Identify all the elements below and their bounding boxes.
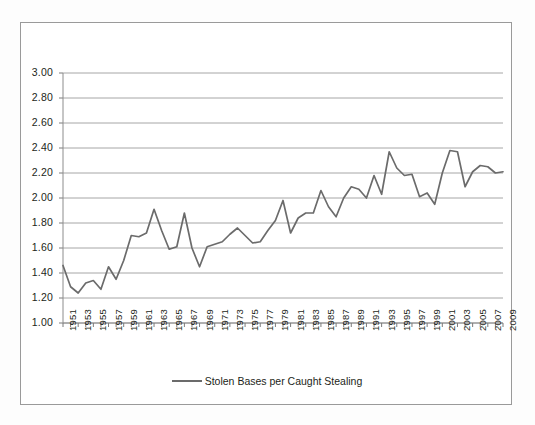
y-tick-label: 3.00: [19, 66, 53, 78]
x-tick-label: 1963: [158, 309, 169, 331]
x-tick-label: 1955: [97, 309, 108, 331]
x-tick-label: 1989: [355, 309, 366, 331]
chart-page: 1.001.201.401.601.802.002.202.402.602.80…: [0, 0, 535, 425]
x-tick-label: 1991: [370, 309, 381, 331]
x-tick-label: 1983: [310, 309, 321, 331]
x-tick-label: 1999: [431, 309, 442, 331]
y-tick-label: 2.20: [19, 166, 53, 178]
x-tick-label: 1975: [249, 309, 260, 331]
y-tick-label: 1.20: [19, 291, 53, 303]
x-tick-label: 1987: [340, 309, 351, 331]
x-tick-label: 1959: [128, 309, 139, 331]
series-line: [63, 151, 503, 294]
x-tick-label: 1967: [188, 309, 199, 331]
x-tick-label: 2005: [477, 309, 488, 331]
x-tick-label: 1985: [325, 309, 336, 331]
x-tick-label: 1973: [234, 309, 245, 331]
line-swatch: [172, 380, 202, 383]
x-tick-label: 1965: [173, 309, 184, 331]
y-tick-label: 2.00: [19, 191, 53, 203]
x-tick-label: 1979: [279, 309, 290, 331]
y-tick-label: 1.80: [19, 216, 53, 228]
x-tick-label: 2003: [461, 309, 472, 331]
y-tick-label: 1.40: [19, 266, 53, 278]
y-tick-label: 2.80: [19, 91, 53, 103]
x-tick-label: 1971: [219, 309, 230, 331]
x-tick-label: 1961: [143, 309, 154, 331]
y-tick-label: 1.60: [19, 241, 53, 253]
chart-area: 1.001.201.401.601.802.002.202.402.602.80…: [21, 23, 513, 406]
x-tick-label: 1957: [113, 309, 124, 331]
chart-legend: Stolen Bases per Caught Stealing: [21, 375, 513, 387]
x-tick-label: 1977: [264, 309, 275, 331]
chart-frame: 1.001.201.401.601.802.002.202.402.602.80…: [20, 22, 512, 405]
x-tick-label: 2007: [492, 309, 503, 331]
x-tick-label: 1969: [204, 309, 215, 331]
x-tick-label: 1995: [401, 309, 412, 331]
x-tick-label: 2009: [507, 309, 518, 331]
x-tick-label: 1997: [416, 309, 427, 331]
data-series: [63, 151, 503, 294]
x-tick-label: 1993: [386, 309, 397, 331]
line-chart-plot: [21, 23, 513, 406]
x-tick-label: 2001: [446, 309, 457, 331]
y-tick-label: 1.00: [19, 316, 53, 328]
x-tick-label: 1953: [82, 309, 93, 331]
y-tick-label: 2.40: [19, 141, 53, 153]
legend-label: Stolen Bases per Caught Stealing: [205, 375, 363, 387]
x-tick-label: 1951: [67, 309, 78, 331]
y-tick-label: 2.60: [19, 116, 53, 128]
x-tick-label: 1981: [295, 309, 306, 331]
